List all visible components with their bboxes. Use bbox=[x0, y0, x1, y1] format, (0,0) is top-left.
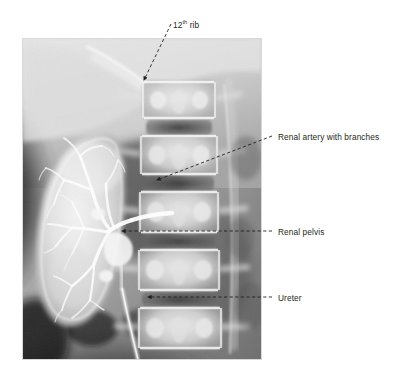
xray-render bbox=[22, 38, 262, 360]
label-renal-artery-with-branches: Renal artery with branches bbox=[278, 132, 379, 142]
xray-image-panel bbox=[22, 38, 262, 360]
label-12th-rib-tail: rib bbox=[187, 20, 199, 30]
anatomy-figure: 12th rib Renal artery with branches Rena… bbox=[0, 0, 412, 378]
label-12th-rib: 12th rib bbox=[173, 20, 199, 30]
label-renal-pelvis: Renal pelvis bbox=[278, 227, 324, 237]
label-ureter: Ureter bbox=[278, 293, 302, 303]
